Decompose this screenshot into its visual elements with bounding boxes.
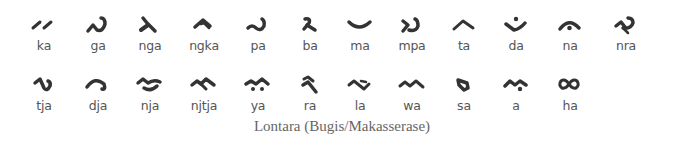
ka-glyph-icon <box>29 14 59 36</box>
letter-label: nga <box>126 38 174 53</box>
ta-glyph-icon <box>449 14 479 36</box>
pa-glyph-icon <box>243 14 273 36</box>
letter-label: njtja <box>180 98 228 113</box>
nra-glyph-icon <box>611 14 641 36</box>
sa-glyph-icon <box>449 74 479 96</box>
ba-glyph-icon <box>295 14 325 36</box>
tja-glyph-icon <box>29 74 59 96</box>
letter-label: a <box>492 98 540 113</box>
letter-njtja: njtja <box>180 74 228 113</box>
ma-glyph-icon <box>345 14 375 36</box>
mpa-glyph-icon <box>397 14 427 36</box>
letter-label: ya <box>234 98 282 113</box>
letter-nra: nra <box>602 14 650 53</box>
na-glyph-icon <box>555 14 585 36</box>
letter-label: ga <box>74 38 122 53</box>
letter-label: ta <box>440 38 488 53</box>
letter-ta: ta <box>440 14 488 53</box>
nga-glyph-icon <box>135 14 165 36</box>
da-glyph-icon <box>501 14 531 36</box>
letter-label: ra <box>286 98 334 113</box>
letter-label: nja <box>126 98 174 113</box>
letter-ha: ha <box>546 74 594 113</box>
ha-glyph-icon <box>555 74 585 96</box>
letter-label: ha <box>546 98 594 113</box>
letter-label: tja <box>20 98 68 113</box>
letter-label: la <box>336 98 384 113</box>
la-glyph-icon <box>345 74 375 96</box>
letter-tja: tja <box>20 74 68 113</box>
ngka-glyph-icon <box>189 14 219 36</box>
letter-label: nra <box>602 38 650 53</box>
letter-nga: nga <box>126 14 174 53</box>
letter-ra: ra <box>286 74 334 113</box>
letter-mpa: mpa <box>388 14 436 53</box>
ya-glyph-icon <box>243 74 273 96</box>
letter-dja: dja <box>74 74 122 113</box>
letter-label: pa <box>234 38 282 53</box>
letter-label: dja <box>74 98 122 113</box>
letter-ma: ma <box>336 14 384 53</box>
chart-caption: Lontara (Bugis/Makasserase) <box>0 118 684 135</box>
a-glyph-icon <box>501 74 531 96</box>
letter-a: a <box>492 74 540 113</box>
letter-ba: ba <box>286 14 334 53</box>
letter-label: mpa <box>388 38 436 53</box>
letter-label: sa <box>440 98 488 113</box>
letter-ya: ya <box>234 74 282 113</box>
letter-label: ngka <box>180 38 228 53</box>
nja-glyph-icon <box>135 74 165 96</box>
letter-label: da <box>492 38 540 53</box>
letter-pa: pa <box>234 14 282 53</box>
njtja-glyph-icon <box>189 74 219 96</box>
letter-label: ka <box>20 38 68 53</box>
letter-la: la <box>336 74 384 113</box>
wa-glyph-icon <box>397 74 427 96</box>
letter-label: wa <box>388 98 436 113</box>
letter-ka: ka <box>20 14 68 53</box>
letter-ga: ga <box>74 14 122 53</box>
letter-label: ma <box>336 38 384 53</box>
letter-label: ba <box>286 38 334 53</box>
ra-glyph-icon <box>295 74 325 96</box>
letter-ngka: ngka <box>180 14 228 53</box>
letter-wa: wa <box>388 74 436 113</box>
dja-glyph-icon <box>83 74 113 96</box>
letter-label: na <box>546 38 594 53</box>
letter-da: da <box>492 14 540 53</box>
letter-sa: sa <box>440 74 488 113</box>
letter-nja: nja <box>126 74 174 113</box>
ga-glyph-icon <box>83 14 113 36</box>
letter-na: na <box>546 14 594 53</box>
